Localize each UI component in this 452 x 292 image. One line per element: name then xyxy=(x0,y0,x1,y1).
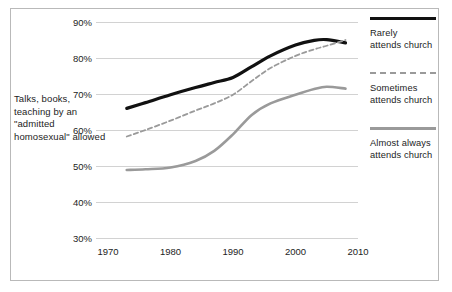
plot-area: 30%40%50%60%70%80%90% 197019801990200020… xyxy=(108,22,358,238)
figure-root: Talks, books, teaching by an "admitted h… xyxy=(0,0,452,292)
y-tick-mark xyxy=(96,166,108,167)
legend-item[interactable]: Rarelyattends church xyxy=(370,14,438,51)
legend-label: attends church xyxy=(370,150,438,162)
x-tick-label: 1990 xyxy=(222,246,243,257)
legend-item[interactable]: Sometimesattends church xyxy=(370,69,438,106)
x-tick-label: 2010 xyxy=(347,246,368,257)
series-lines xyxy=(108,22,358,238)
y-tick-label: 70% xyxy=(73,89,92,100)
y-tick-label: 80% xyxy=(73,53,92,64)
x-tick-label: 1980 xyxy=(160,246,181,257)
y-tick-mark xyxy=(96,130,108,131)
legend-swatch-solid xyxy=(370,124,436,133)
gridline xyxy=(108,238,358,239)
legend-line-sample xyxy=(370,17,436,20)
legend-line-sample xyxy=(370,72,436,74)
y-tick-mark xyxy=(96,94,108,95)
y-tick-mark xyxy=(96,22,108,23)
y-tick-label: 50% xyxy=(73,161,92,172)
legend-label: attends church xyxy=(370,95,438,107)
y-tick-label: 40% xyxy=(73,197,92,208)
y-tick-label: 60% xyxy=(73,125,92,136)
legend-line-sample xyxy=(370,127,436,130)
x-tick-label: 2000 xyxy=(285,246,306,257)
legend-label: Rarely xyxy=(370,28,438,40)
y-tick-mark xyxy=(96,238,108,239)
legend-label: Sometimes xyxy=(370,83,438,95)
x-tick-label: 1970 xyxy=(97,246,118,257)
legend-swatch-dashed xyxy=(370,69,436,78)
y-tick-label: 90% xyxy=(73,17,92,28)
legend: Rarelyattends churchSometimesattends chu… xyxy=(370,14,438,180)
y-tick-label: 30% xyxy=(73,233,92,244)
y-tick-mark xyxy=(96,202,108,203)
y-axis-caption: Talks, books, teaching by an "admitted h… xyxy=(14,93,106,143)
legend-item[interactable]: Almost alwaysattends church xyxy=(370,124,438,161)
legend-swatch-solid xyxy=(370,14,436,23)
legend-label: attends church xyxy=(370,40,438,52)
legend-label: Almost always xyxy=(370,138,438,150)
y-tick-mark xyxy=(96,58,108,59)
